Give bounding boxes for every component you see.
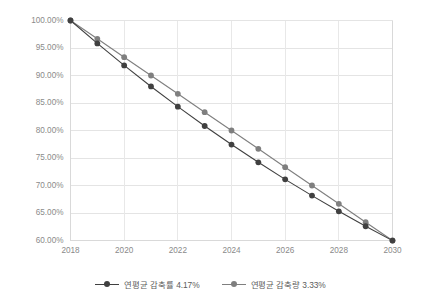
x-axis-tick-label: 2022 bbox=[169, 246, 188, 255]
y-axis-tick-label: 60.00% bbox=[36, 236, 64, 245]
legend-item-series-1[interactable]: 연평균 감축률 4.17% bbox=[95, 278, 199, 290]
data-point bbox=[148, 73, 154, 79]
y-axis-tick-label: 90.00% bbox=[36, 71, 64, 80]
legend-label-series-1: 연평균 감축률 4.17% bbox=[124, 278, 199, 290]
y-axis-tick-label: 70.00% bbox=[36, 181, 64, 190]
y-axis-tick-label: 65.00% bbox=[36, 208, 64, 217]
data-point bbox=[68, 18, 74, 24]
y-axis-tick-label: 100.00% bbox=[31, 16, 63, 25]
legend-label-series-2: 연평균 감축량 3.33% bbox=[251, 278, 326, 290]
data-point bbox=[255, 159, 261, 165]
data-point bbox=[121, 63, 127, 69]
x-axis-tick-label: 2024 bbox=[222, 246, 241, 255]
data-point bbox=[229, 142, 235, 148]
data-point bbox=[202, 109, 208, 115]
legend-marker-icon-series-1 bbox=[95, 280, 119, 289]
data-point bbox=[121, 54, 127, 60]
x-axis-tick-label: 2030 bbox=[383, 246, 402, 255]
chart-container: 100.00%95.00%90.00%85.00%80.00%75.00%70.… bbox=[0, 0, 421, 296]
y-axis-tick-label: 75.00% bbox=[36, 153, 64, 162]
line-chart-plot: 100.00%95.00%90.00%85.00%80.00%75.00%70.… bbox=[0, 0, 421, 296]
data-point bbox=[229, 128, 235, 134]
x-axis-tick-label: 2026 bbox=[276, 246, 295, 255]
data-point bbox=[309, 193, 315, 199]
x-axis-tick-label: 2028 bbox=[330, 246, 349, 255]
x-axis-tick-label: 2020 bbox=[115, 246, 134, 255]
data-point bbox=[282, 176, 288, 182]
data-point bbox=[336, 201, 342, 207]
x-axis-tick-labels: 2018202020222024202620282030 bbox=[61, 246, 402, 255]
data-point bbox=[94, 41, 100, 47]
y-axis-tick-label: 95.00% bbox=[36, 43, 64, 52]
data-point bbox=[336, 208, 342, 214]
y-axis-tick-label: 85.00% bbox=[36, 98, 64, 107]
chart-legend: 연평균 감축률 4.17% 연평균 감축량 3.33% bbox=[0, 278, 421, 290]
legend-item-series-2[interactable]: 연평균 감축량 3.33% bbox=[222, 278, 326, 290]
data-point bbox=[202, 123, 208, 129]
data-point bbox=[309, 183, 315, 189]
data-point bbox=[175, 104, 181, 110]
data-point bbox=[282, 164, 288, 170]
x-axis-tick-label: 2018 bbox=[61, 246, 80, 255]
y-axis-tick-label: 80.00% bbox=[36, 126, 64, 135]
data-point bbox=[148, 84, 154, 90]
data-point bbox=[390, 238, 396, 244]
data-point bbox=[363, 223, 369, 229]
y-axis-tick-labels: 100.00%95.00%90.00%85.00%80.00%75.00%70.… bbox=[31, 16, 63, 245]
data-point bbox=[175, 91, 181, 97]
legend-marker-icon-series-2 bbox=[222, 280, 246, 289]
data-point bbox=[255, 146, 261, 152]
